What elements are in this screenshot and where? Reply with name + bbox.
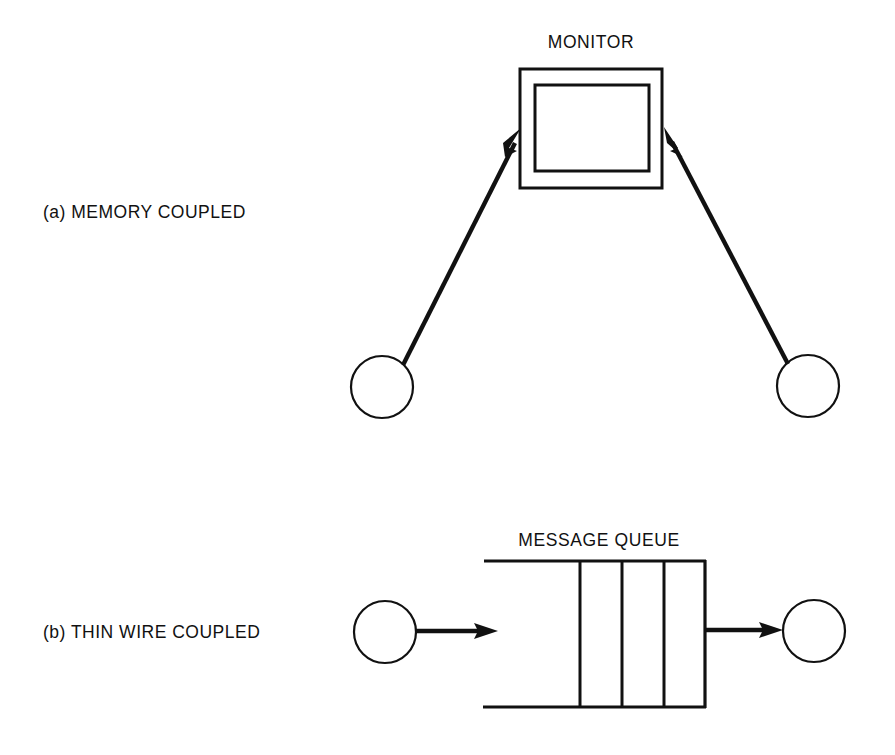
arrow-shaft (672, 142, 788, 364)
monitor-inner-rect (535, 85, 649, 171)
arrow-head-up-right (503, 128, 521, 157)
part-b-group: (b) THIN WIRE COUPLED MESSAGE QUEUE (43, 530, 845, 708)
message-queue-title: MESSAGE QUEUE (518, 530, 679, 550)
arrow-head-up-left (664, 127, 683, 157)
part-b-caption: (b) THIN WIRE COUPLED (43, 622, 260, 642)
part-a-left-arrow (403, 128, 521, 365)
monitor-shape (520, 69, 662, 188)
message-queue-shape (483, 560, 706, 708)
part-a-right-arrow (664, 127, 788, 364)
coupling-diagram: (a) MEMORY COUPLED MONITOR (0, 0, 895, 755)
part-b-right-node (783, 600, 845, 662)
part-a-caption: (a) MEMORY COUPLED (43, 202, 246, 222)
figure-root: (a) MEMORY COUPLED MONITOR (0, 0, 895, 755)
monitor-title: MONITOR (548, 32, 635, 52)
process-node-circle (783, 600, 845, 662)
part-b-enqueue-arrow (416, 623, 498, 639)
arrow-shaft (403, 143, 515, 365)
part-a-group: (a) MEMORY COUPLED MONITOR (43, 32, 839, 418)
process-node-circle (354, 601, 416, 663)
part-b-left-node (354, 601, 416, 663)
part-b-dequeue-arrow (706, 622, 783, 638)
